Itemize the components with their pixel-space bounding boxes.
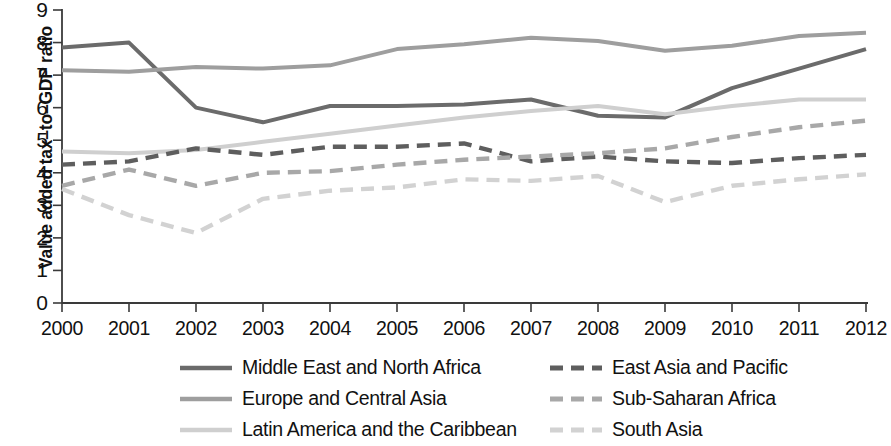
series-line-south-asia [62,174,866,233]
x-tick-label: 2003 [228,319,298,339]
legend-label: Latin America and the Caribbean [242,418,517,441]
x-tick-label: 2000 [27,319,97,339]
legend-swatch-icon [180,392,232,406]
chart-legend: Middle East and North AfricaEurope and C… [150,352,891,446]
y-tick-label: 3 [14,194,48,215]
line-chart-svg [0,0,891,320]
series-line-middle-east-and-north-africa [62,43,866,123]
x-tick-label: 2010 [697,319,767,339]
x-tick-label: 2007 [496,319,566,339]
legend-label: Middle East and North Africa [242,356,481,379]
x-tick-label: 2009 [630,319,700,339]
legend-column-left: Middle East and North AfricaEurope and C… [180,352,517,445]
x-tick-label: 2004 [295,319,365,339]
chart-page: Value added tax–to–GDP ratio 9876543210 … [0,0,891,446]
y-tick-label: 2 [14,227,48,248]
legend-column-right: East Asia and PacificSub-Saharan AfricaS… [550,352,788,445]
series-line-europe-and-central-asia [62,33,866,72]
x-tick-label: 2011 [764,319,834,339]
legend-item[interactable]: Europe and Central Asia [180,383,517,414]
legend-item[interactable]: East Asia and Pacific [550,352,788,383]
plot-area [0,0,891,320]
x-tick-label: 2002 [161,319,231,339]
x-tick-label: 2005 [362,319,432,339]
y-tick-label: 5 [14,129,48,150]
legend-item[interactable]: South Asia [550,414,788,445]
x-tick-label: 2008 [563,319,633,339]
y-tick-label: 8 [14,32,48,53]
legend-swatch-icon [180,423,232,437]
legend-label: Europe and Central Asia [242,387,447,410]
legend-item[interactable]: Middle East and North Africa [180,352,517,383]
series-line-sub-saharan-africa [62,121,866,186]
legend-item[interactable]: Latin America and the Caribbean [180,414,517,445]
y-tick-label: 7 [14,64,48,85]
legend-swatch-icon [550,392,602,406]
y-tick-label: 4 [14,162,48,183]
x-tick-label: 2012 [831,319,891,339]
x-tick-label: 2006 [429,319,499,339]
legend-item[interactable]: Sub-Saharan Africa [550,383,788,414]
legend-label: South Asia [612,418,702,441]
legend-swatch-icon [550,423,602,437]
y-tick-label: 1 [14,259,48,280]
legend-swatch-icon [550,361,602,375]
legend-swatch-icon [180,361,232,375]
y-tick-label: 6 [14,97,48,118]
legend-label: East Asia and Pacific [612,356,788,379]
x-tick-label: 2001 [94,319,164,339]
y-tick-label: 0 [14,292,48,313]
y-tick-label: 9 [14,0,48,20]
series-lines [62,33,866,233]
legend-label: Sub-Saharan Africa [612,387,776,410]
